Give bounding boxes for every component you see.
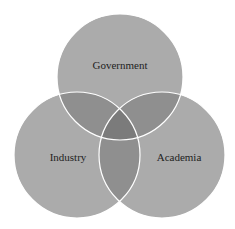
- label-academia: Academia: [157, 151, 202, 163]
- label-industry: Industry: [50, 151, 87, 163]
- label-government: Government: [93, 59, 148, 71]
- venn-diagram: Government Industry Academia: [0, 0, 235, 229]
